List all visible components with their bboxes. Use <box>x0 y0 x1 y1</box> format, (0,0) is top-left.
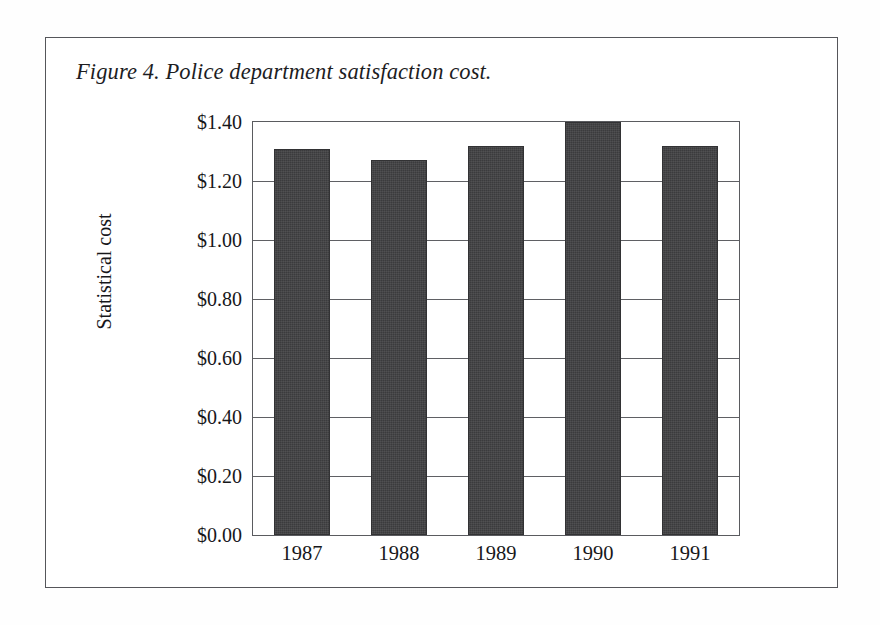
figure-border-box: Figure 4. Police department satisfaction… <box>45 37 838 588</box>
x-tick-label: 1989 <box>468 542 524 565</box>
x-tick-label: 1991 <box>662 542 718 565</box>
y-tick-label: $0.40 <box>197 406 242 429</box>
y-tick-label: $1.40 <box>197 111 242 134</box>
bar <box>565 122 621 535</box>
y-tick-label: $1.20 <box>197 170 242 193</box>
figure-page: Figure 4. Police department satisfaction… <box>0 0 880 625</box>
bar-slot <box>371 122 427 535</box>
bar <box>662 146 718 535</box>
bar-slot <box>565 122 621 535</box>
x-tick-label: 1990 <box>565 542 621 565</box>
bar-slot <box>274 122 330 535</box>
x-tick-label: 1987 <box>274 542 330 565</box>
y-tick-label: $1.00 <box>197 229 242 252</box>
figure-caption: Figure 4. Police department satisfaction… <box>76 59 492 85</box>
bar-slot <box>468 122 524 535</box>
plot-area: $0.00$0.20$0.40$0.60$0.80$1.00$1.20$1.40… <box>252 121 740 536</box>
y-tick-label: $0.60 <box>197 347 242 370</box>
bar <box>371 160 427 535</box>
bar-slot <box>662 122 718 535</box>
bar <box>468 146 524 535</box>
bar <box>274 149 330 535</box>
x-tick-label: 1988 <box>371 542 427 565</box>
y-tick-label: $0.00 <box>197 524 242 547</box>
y-tick-label: $0.80 <box>197 288 242 311</box>
y-tick-label: $0.20 <box>197 465 242 488</box>
bar-series <box>253 122 739 535</box>
y-axis-title: Statistical cost <box>93 162 116 382</box>
